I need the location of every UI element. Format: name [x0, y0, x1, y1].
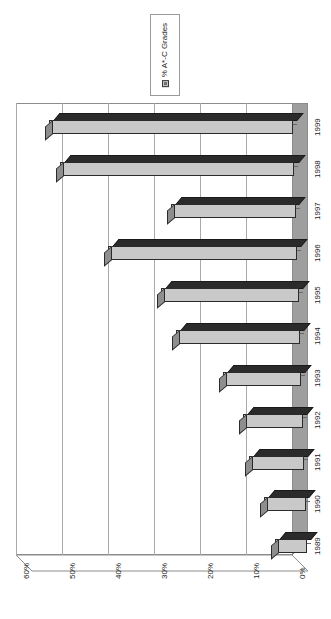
category-tick-mark — [301, 375, 305, 376]
bar-front-face — [108, 246, 297, 260]
bar-front-face — [161, 288, 299, 302]
value-tick-label: 50% — [69, 563, 77, 579]
category-tick-mark — [293, 124, 297, 125]
value-tick-label: 30% — [161, 563, 169, 579]
plot-area — [16, 103, 308, 565]
category-tick-mark — [300, 333, 304, 334]
bar-1998 — [60, 155, 295, 176]
legend-entry: % A*-C Grades — [161, 23, 169, 87]
bar-front-face — [49, 120, 293, 134]
bar-front-face — [60, 162, 295, 176]
bar-1993 — [223, 365, 301, 386]
bar-front-face — [171, 204, 295, 218]
category-tick-label-1998: 1998 — [314, 160, 322, 178]
bar-front-face — [243, 414, 303, 428]
bar-front-face — [264, 497, 305, 511]
value-tick-label: 20% — [207, 563, 215, 579]
category-tick-label-1989: 1989 — [314, 537, 322, 555]
bar-front-face — [223, 372, 301, 386]
category-tick-label-1993: 1993 — [314, 369, 322, 387]
value-tick-label: 10% — [253, 563, 261, 579]
category-tick-label-1997: 1997 — [314, 202, 322, 220]
value-tick-label: 0% — [299, 567, 307, 579]
category-tick-label-1991: 1991 — [314, 453, 322, 471]
bar-1995 — [161, 281, 299, 302]
category-tick-mark — [297, 250, 301, 251]
category-tick-label-1999: 1999 — [314, 118, 322, 136]
bar-1990 — [264, 490, 305, 511]
category-tick-mark — [307, 543, 311, 544]
category-tick-mark — [306, 501, 310, 502]
legend-swatch-icon — [162, 80, 169, 87]
category-tick-mark — [299, 292, 303, 293]
legend-entry-label: % A*-C Grades — [161, 23, 169, 77]
bar-front-face — [249, 456, 304, 470]
category-tick-label-1992: 1992 — [314, 411, 322, 429]
bar-1991 — [249, 449, 304, 470]
category-tick-mark — [303, 417, 307, 418]
category-tick-label-1990: 1990 — [314, 495, 322, 513]
category-tick-mark — [304, 459, 308, 460]
chart-container: % A*-C Grades 60%50%40%30%20%10%0% 19891… — [0, 0, 331, 619]
category-tick-label-1996: 1996 — [314, 244, 322, 262]
category-tick-mark — [294, 166, 298, 167]
chart-legend: % A*-C Grades — [150, 14, 180, 96]
value-tick-label: 60% — [23, 563, 31, 579]
value-tick-label: 40% — [115, 563, 123, 579]
bar-1989 — [275, 532, 307, 553]
bar-1992 — [243, 407, 303, 428]
bar-1996 — [108, 239, 297, 260]
category-tick-mark — [296, 208, 300, 209]
category-tick-label-1994: 1994 — [314, 328, 322, 346]
bar-1999 — [49, 113, 293, 134]
gridline — [16, 103, 17, 555]
bar-1994 — [176, 323, 300, 344]
bar-front-face — [176, 330, 300, 344]
bar-1997 — [171, 197, 295, 218]
category-tick-label-1995: 1995 — [314, 286, 322, 304]
bar-front-face — [275, 539, 307, 553]
